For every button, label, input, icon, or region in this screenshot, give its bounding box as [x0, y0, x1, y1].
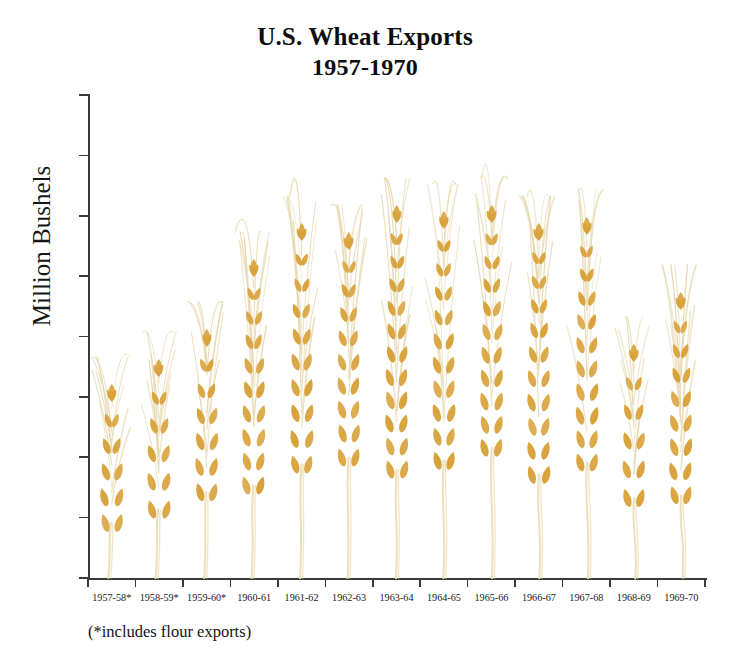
wheat-stalk-1964-65	[422, 182, 466, 578]
wheat-stalk-1965-66	[470, 176, 514, 578]
x-tick-3	[230, 578, 232, 587]
y-tick-600	[79, 215, 88, 217]
x-tick-7	[419, 578, 421, 587]
x-tick-5	[325, 578, 327, 587]
chart-title-line1: U.S. Wheat Exports	[0, 22, 730, 52]
wheat-stalk-1969-70	[659, 263, 703, 578]
x-axis-line	[88, 578, 707, 580]
wheat-stalk-1958-59	[137, 330, 181, 578]
wheat-stalk-1961-62	[280, 194, 324, 578]
x-tick-1	[135, 578, 137, 587]
y-tick-400	[79, 336, 88, 338]
x-tick-0	[87, 578, 89, 587]
y-tick-200	[79, 456, 88, 458]
x-tick-label-12: 1969-70	[647, 592, 715, 603]
y-tick-300	[79, 396, 88, 398]
chart-title: U.S. Wheat Exports 1957-1970	[0, 22, 730, 82]
x-tick-9	[514, 578, 516, 587]
wheat-stalk-1962-63	[327, 203, 371, 578]
wheat-stalk-1968-69	[612, 315, 656, 578]
x-tick-2	[182, 578, 184, 587]
x-tick-4	[277, 578, 279, 587]
y-tick-500	[79, 275, 88, 277]
x-tick-11	[609, 578, 611, 587]
y-axis-title: Million Bushels	[28, 116, 56, 376]
chart-title-line2: 1957-1970	[0, 52, 730, 82]
y-tick-800	[79, 94, 88, 96]
chart-root: U.S. Wheat Exports 1957-1970 Million Bus…	[0, 0, 730, 662]
wheat-stalk-1960-61	[232, 230, 276, 578]
chart-footnote: (*includes flour exports)	[88, 622, 251, 642]
wheat-stalk-1959-60	[185, 300, 229, 578]
x-tick-12	[657, 578, 659, 587]
wheat-stalk-1967-68	[565, 188, 609, 578]
x-tick-10	[562, 578, 564, 587]
plot-area	[88, 95, 705, 578]
wheat-stalk-1966-67	[517, 194, 561, 578]
wheat-stalk-1957-58	[90, 355, 134, 578]
y-tick-100	[79, 517, 88, 519]
x-tick-13	[704, 578, 706, 587]
y-tick-700	[79, 155, 88, 157]
x-tick-6	[372, 578, 374, 587]
x-tick-8	[467, 578, 469, 587]
wheat-stalk-1963-64	[375, 176, 419, 578]
